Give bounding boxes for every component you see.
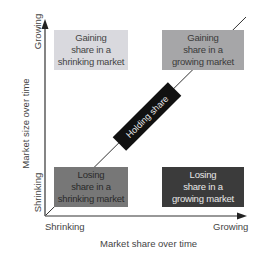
market-share-matrix: Gaining share in a shrinking market Gain… (0, 0, 261, 258)
y-axis-max-label: Growing (32, 12, 43, 52)
quadrant-line: share in a (58, 181, 125, 193)
quadrant-line: growing market (172, 56, 234, 68)
quadrant-line: Losing (58, 169, 125, 181)
quadrant-line: Gaining (58, 32, 125, 44)
x-axis-title: Market share over time (100, 238, 197, 249)
x-axis-min-label: Shrinking (45, 221, 85, 232)
quadrant-losing-shrinking: Losing share in a shrinking market (54, 167, 128, 207)
quadrant-line: growing market (172, 193, 234, 205)
quadrant-line: Gaining (172, 32, 234, 44)
quadrant-gaining-growing: Gaining share in a growing market (162, 30, 244, 70)
quadrant-line: shrinking market (58, 193, 125, 205)
quadrant-line: Losing (172, 169, 234, 181)
y-axis-min-label: Shrinking (32, 170, 43, 216)
x-axis-arrow-icon (237, 213, 247, 220)
quadrant-line: share in a (172, 181, 234, 193)
quadrant-gaining-shrinking: Gaining share in a shrinking market (54, 30, 128, 70)
y-axis-arrow-icon (42, 19, 49, 29)
quadrant-line: share in a (172, 44, 234, 56)
quadrant-line: shrinking market (58, 56, 125, 68)
quadrant-losing-growing: Losing share in a growing market (162, 167, 244, 207)
x-axis-max-label: Growing (213, 221, 248, 232)
y-axis-title: Market size over time (20, 69, 31, 179)
quadrant-line: share in a (58, 44, 125, 56)
